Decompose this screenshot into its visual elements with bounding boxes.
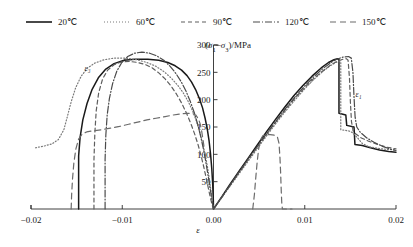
legend-label: 60℃: [136, 17, 155, 27]
curve-annotation: ε₃: [85, 64, 91, 73]
series-curve: [214, 59, 397, 209]
series-curve: [214, 59, 397, 209]
svg-text:−0.01: −0.01: [112, 215, 133, 225]
series-curve: [94, 61, 214, 209]
chart-legend: 20℃60℃90℃120℃150℃: [26, 17, 386, 27]
svg-text:250: 250: [197, 68, 211, 78]
chart-series: [36, 52, 396, 209]
legend-label: 90℃: [213, 17, 232, 27]
legend-label: 120℃: [285, 17, 309, 27]
series-curve: [214, 56, 397, 209]
svg-text:0.00: 0.00: [206, 215, 222, 225]
chart-canvas: 20℃60℃90℃120℃150℃ −0.02−0.010.000.010.02…: [0, 0, 413, 247]
series-curve: [71, 113, 204, 209]
x-axis-title: ε: [196, 225, 200, 235]
legend-label: 150℃: [362, 17, 386, 27]
y-axis-title: (σ1−σ3)/MPa: [205, 40, 251, 53]
series-curve: [36, 58, 214, 209]
curve-annotation: ε₁: [356, 90, 362, 99]
stress-strain-chart: 20℃60℃90℃120℃150℃ −0.02−0.010.000.010.02…: [0, 0, 413, 247]
svg-text:−0.02: −0.02: [21, 215, 42, 225]
svg-text:0.02: 0.02: [388, 215, 404, 225]
series-curve: [79, 59, 214, 209]
legend-label: 20℃: [58, 17, 77, 27]
svg-text:0.01: 0.01: [297, 215, 313, 225]
